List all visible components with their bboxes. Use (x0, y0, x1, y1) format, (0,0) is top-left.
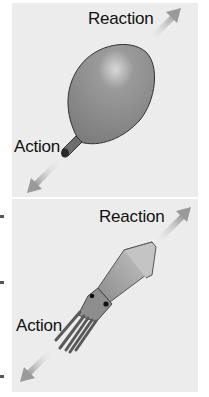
reaction-arrow-icon (150, 8, 181, 40)
squid-reaction-label: Reaction (99, 207, 165, 227)
squid-action-label: Action (16, 316, 62, 336)
balloon-reaction-label: Reaction (88, 9, 154, 29)
squid-icon (56, 242, 156, 352)
action-arrow-icon (20, 350, 52, 382)
diagram-graphics (0, 0, 209, 397)
action-arrow-icon (27, 160, 60, 193)
balloon-icon (61, 44, 155, 157)
balloon-action-label: Action (14, 137, 60, 157)
